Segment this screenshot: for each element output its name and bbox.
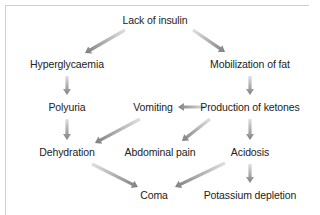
node-coma: Coma: [140, 189, 168, 201]
node-production-of-ketones: Production of ketones: [200, 101, 299, 113]
arrow-dehydration-to-coma: [91, 163, 138, 188]
node-mobilization-of-fat: Mobilization of fat: [210, 58, 290, 70]
node-hyperglycaemia: Hyperglycaemia: [30, 58, 104, 70]
node-potassium-depletion: Potassium depletion: [204, 189, 297, 201]
node-polyuria: Polyuria: [48, 101, 85, 113]
arrow-production-ketones-to-acidosis: [246, 119, 254, 140]
arrow-mobilization-fat-to-production-ketones: [246, 76, 254, 95]
arrow-vomiting-to-dehydration: [95, 118, 141, 144]
arrow-production-ketones-to-abdominal-pain: [182, 118, 211, 141]
node-vomiting: Vomiting: [133, 101, 172, 113]
arrow-lack-insulin-to-hyperglycaemia: [85, 29, 126, 54]
arrow-acidosis-to-coma: [175, 162, 226, 188]
arrow-hyperglycaemia-to-polyuria: [63, 76, 71, 95]
arrow-polyuria-to-dehydration: [63, 119, 71, 140]
arrow-acidosis-to-potassium-depletion: [246, 164, 254, 183]
node-lack-of-insulin: Lack of insulin: [122, 14, 187, 26]
node-abdominal-pain: Abdominal pain: [125, 146, 196, 158]
arrow-lack-insulin-to-mobilization-fat: [192, 29, 225, 52]
node-dehydration: Dehydration: [39, 146, 95, 158]
node-acidosis: Acidosis: [231, 146, 269, 158]
